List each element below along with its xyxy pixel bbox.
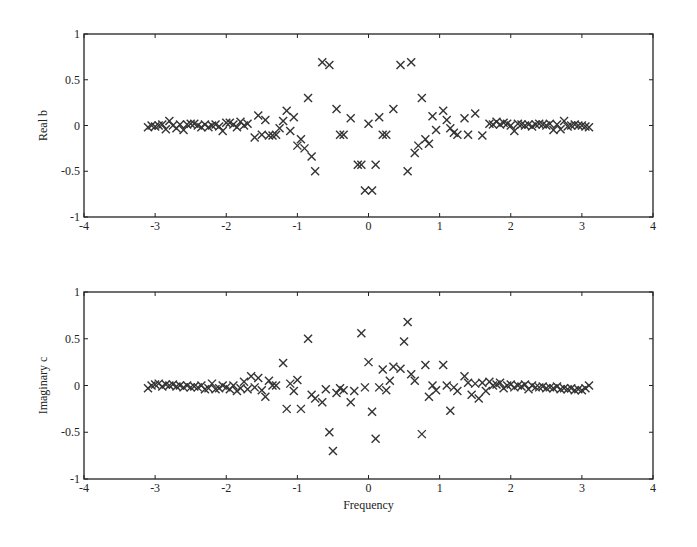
x-marker — [443, 382, 451, 390]
x-marker — [325, 61, 333, 69]
x-axis-label: Frequency — [343, 498, 394, 512]
x-marker — [418, 94, 426, 102]
x-tick-label: -1 — [292, 481, 302, 495]
x-marker — [300, 144, 308, 152]
x-marker — [283, 405, 291, 413]
x-marker — [439, 361, 447, 369]
x-tick-label: -4 — [79, 481, 89, 495]
x-marker — [293, 376, 301, 384]
x-marker — [446, 407, 454, 415]
x-marker — [318, 398, 326, 406]
x-marker — [397, 61, 405, 69]
x-marker — [418, 430, 426, 438]
x-marker — [478, 379, 486, 387]
x-marker — [482, 387, 490, 395]
x-marker — [372, 161, 380, 169]
x-marker — [357, 329, 365, 337]
x-marker — [461, 114, 469, 122]
x-tick-label: 3 — [579, 219, 585, 233]
x-marker — [411, 149, 419, 157]
y-tick-label: 0 — [74, 379, 80, 393]
x-tick-label: 4 — [650, 219, 656, 233]
x-marker — [471, 380, 479, 388]
x-marker — [471, 110, 479, 118]
x-tick-label: 3 — [579, 481, 585, 495]
x-tick-label: 1 — [437, 481, 443, 495]
x-tick-label: 4 — [650, 481, 656, 495]
x-marker — [286, 127, 294, 135]
x-tick-label: 0 — [366, 219, 372, 233]
x-marker — [244, 385, 252, 393]
x-marker — [279, 117, 287, 125]
x-marker — [279, 359, 287, 367]
x-marker — [375, 113, 383, 121]
x-marker — [429, 382, 437, 390]
x-marker — [311, 167, 319, 175]
x-marker — [251, 133, 259, 141]
x-marker — [219, 127, 227, 135]
x-marker — [361, 383, 369, 391]
x-marker — [400, 338, 408, 346]
y-tick-label: 1 — [74, 27, 80, 41]
x-marker — [304, 335, 312, 343]
x-marker — [244, 120, 252, 128]
y-tick-label: 0 — [74, 119, 80, 133]
x-marker — [439, 107, 447, 115]
x-marker — [375, 383, 383, 391]
x-marker — [254, 374, 262, 382]
y-tick-label: 0.5 — [65, 73, 80, 87]
x-marker — [382, 386, 390, 394]
x-marker — [318, 58, 326, 66]
x-marker — [421, 361, 429, 369]
x-marker — [475, 395, 483, 403]
x-marker — [297, 405, 305, 413]
y-tick-label: 0.5 — [65, 332, 80, 346]
x-marker — [425, 140, 433, 148]
x-marker — [361, 186, 369, 194]
x-marker — [443, 116, 451, 124]
x-marker — [265, 377, 273, 385]
y-axis-label: Real b — [36, 110, 50, 141]
x-marker — [453, 387, 461, 395]
x-marker — [421, 135, 429, 143]
x-marker — [347, 114, 355, 122]
x-marker — [464, 131, 472, 139]
x-marker — [332, 105, 340, 113]
x-marker — [329, 447, 337, 455]
x-tick-label: -3 — [150, 219, 160, 233]
y-axis-label: Imaginary c — [36, 357, 50, 415]
x-tick-label: -3 — [150, 481, 160, 495]
x-marker — [397, 365, 405, 373]
x-marker — [389, 363, 397, 371]
x-marker — [347, 398, 355, 406]
x-marker — [368, 408, 376, 416]
x-marker — [432, 126, 440, 134]
x-marker — [304, 94, 312, 102]
x-tick-label: 1 — [437, 219, 443, 233]
x-marker — [258, 131, 266, 139]
x-marker — [521, 381, 529, 389]
x-tick-label: -2 — [221, 481, 231, 495]
x-marker — [432, 386, 440, 394]
x-marker — [350, 387, 358, 395]
x-tick-label: -4 — [79, 219, 89, 233]
x-marker — [389, 105, 397, 113]
x-marker — [379, 366, 387, 374]
x-marker — [311, 395, 319, 403]
x-marker — [368, 186, 376, 194]
x-marker — [308, 153, 316, 161]
chart-canvas: -4-3-2-10123410.50-0.5-1Real b -4-3-2-10… — [0, 0, 697, 547]
x-marker — [332, 389, 340, 397]
y-tick-label: -0.5 — [61, 425, 80, 439]
y-tick-label: -1 — [70, 472, 80, 486]
x-marker — [261, 116, 269, 124]
x-marker — [386, 377, 394, 385]
y-tick-label: -1 — [70, 210, 80, 224]
x-marker — [365, 358, 373, 366]
x-marker — [557, 125, 565, 133]
x-marker — [322, 385, 330, 393]
x-marker — [254, 111, 262, 119]
x-marker — [585, 382, 593, 390]
x-marker — [325, 428, 333, 436]
x-tick-label: 0 — [366, 481, 372, 495]
